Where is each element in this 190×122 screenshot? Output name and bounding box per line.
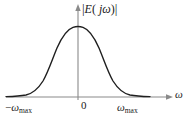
neg-omega-subscript: max bbox=[19, 106, 32, 115]
magnitude-spectrum-figure: |E( jω)| ω 0 −ωmax ωmax bbox=[0, 0, 190, 122]
origin-label: 0 bbox=[81, 100, 87, 111]
y-axis-arrowhead bbox=[75, 4, 80, 11]
neg-omega-symbol: ω bbox=[11, 101, 19, 113]
x-tick-label-neg-omega-max: −ωmax bbox=[5, 102, 32, 115]
pos-omega-symbol: ω bbox=[117, 101, 125, 113]
y-axis-title-paren-open: ( bbox=[92, 2, 99, 16]
y-axis-title: |E( jω)| bbox=[82, 2, 117, 15]
pos-omega-subscript: max bbox=[125, 106, 138, 115]
y-axis-title-close-bar: | bbox=[115, 1, 118, 16]
y-axis-title-arg-omega: ω bbox=[102, 2, 110, 16]
y-axis-title-function: E bbox=[85, 2, 92, 16]
x-axis-arrowhead bbox=[166, 94, 173, 99]
x-axis-title: ω bbox=[175, 89, 183, 100]
x-tick-label-omega-max: ωmax bbox=[117, 102, 138, 115]
